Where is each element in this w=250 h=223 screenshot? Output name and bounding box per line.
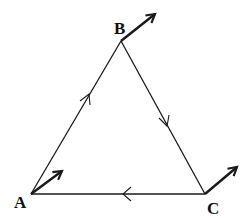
vertex-label-b: B (114, 19, 125, 38)
triangle-diagram: A B C (0, 0, 250, 223)
edge-ab (31, 41, 121, 194)
vector-arrow-a-icon (31, 171, 62, 194)
edge-bc (121, 41, 205, 194)
vertex-label-c: C (207, 199, 219, 218)
vector-arrow-b-icon (121, 14, 155, 41)
vertex-label-a: A (14, 193, 27, 212)
diagram-svg: A B C (0, 0, 250, 223)
vector-arrow-c-icon (205, 167, 237, 194)
